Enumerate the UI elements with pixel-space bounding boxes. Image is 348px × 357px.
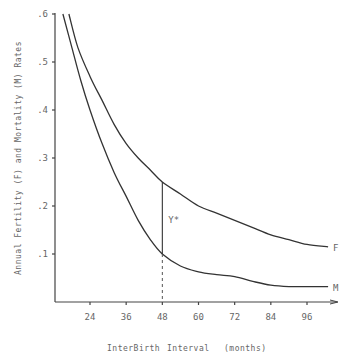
x-tick-label: 24 xyxy=(85,312,96,322)
x-axis-title-part3: (months) xyxy=(224,344,267,353)
y-tick-label: .5 xyxy=(37,57,48,67)
curves: FMY* xyxy=(63,14,339,302)
y-tick-label: .6 xyxy=(37,9,48,19)
x-axis-title-part2: Interval xyxy=(167,344,210,353)
x-tick-label: 72 xyxy=(229,312,240,322)
x-axis-title-part1: InterBirth xyxy=(107,344,160,353)
chart: .1.2.3.4.5.6 24364860728496 FMY* Annual … xyxy=(0,0,348,357)
curve-f xyxy=(69,14,328,247)
x-tick-label: 96 xyxy=(302,312,313,322)
y-axis-title: Annual Fertility (F) and Mortality (M) R… xyxy=(14,41,23,275)
y-tick-label: .3 xyxy=(37,153,48,163)
curve-label-f: F xyxy=(333,243,338,253)
x-ticks: 24364860728496 xyxy=(85,302,313,322)
x-tick-label: 36 xyxy=(121,312,132,322)
x-tick-label: 84 xyxy=(265,312,276,322)
y-tick-label: .4 xyxy=(37,105,48,115)
curve-m xyxy=(63,14,328,287)
y-tick-label: .2 xyxy=(37,201,48,211)
x-tick-label: 48 xyxy=(157,312,168,322)
x-tick-label: 60 xyxy=(193,312,204,322)
ystar-label: Y* xyxy=(168,215,179,225)
curve-label-m: M xyxy=(333,283,339,293)
y-ticks: .1.2.3.4.5.6 xyxy=(37,9,55,259)
y-tick-label: .1 xyxy=(37,249,48,259)
